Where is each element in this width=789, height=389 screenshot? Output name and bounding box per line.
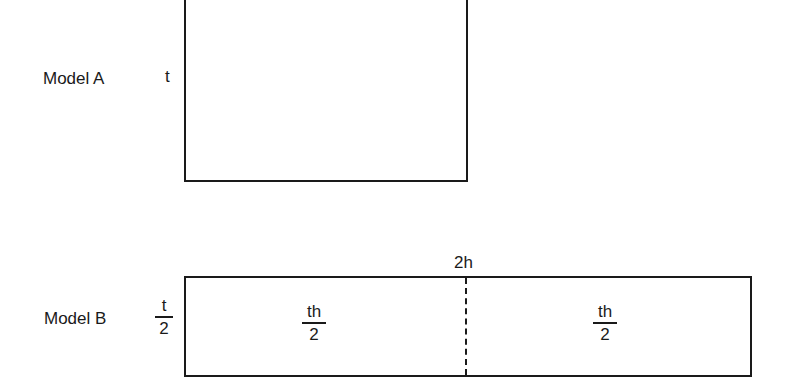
fraction-denominator: 2 [600,325,609,344]
model-b-divider [465,278,467,375]
fraction-denominator: 2 [309,325,318,344]
model-b-label: Model B [44,309,106,329]
fraction-numerator: th [307,302,321,321]
model-b-box [184,276,752,377]
fraction-bar [302,322,326,324]
model-a-thickness-label: t [165,67,170,87]
model-b-width-label: 2h [454,253,473,273]
model-b-right-half-fraction: th 2 [593,302,617,344]
fraction-numerator: th [598,302,612,321]
fraction-numerator: t [162,296,167,315]
model-b-left-half-fraction: th 2 [302,302,326,344]
model-b-thickness-fraction: t 2 [155,296,173,338]
model-a-box [184,0,468,182]
fraction-bar [593,322,617,324]
fraction-denominator: 2 [159,319,168,338]
model-a-label: Model A [43,69,104,89]
fraction-bar [155,316,173,318]
